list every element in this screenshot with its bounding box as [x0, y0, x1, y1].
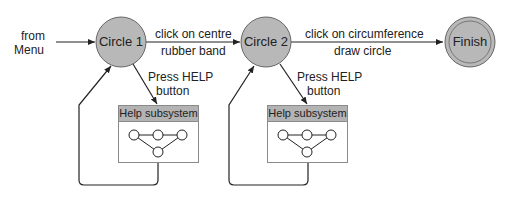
- help-event-2: Press HELP: [297, 70, 362, 84]
- node-label-circle2: Circle 2: [241, 34, 291, 49]
- node-label-finish: Finish: [445, 34, 495, 49]
- entry-label-line1: from: [21, 29, 45, 43]
- transition-event-2: click on circumference: [305, 27, 424, 41]
- help-subsystem-title-1: Help subsystem: [119, 106, 198, 122]
- transition-action-1: rubber band: [161, 44, 226, 58]
- help-subsystem-title-2: Help subsystem: [268, 106, 347, 122]
- help-network-icon: [268, 122, 347, 163]
- node-label-circle1: Circle 1: [96, 34, 146, 49]
- diagram-canvas: [0, 0, 505, 203]
- entry-label-line2: Menu: [14, 43, 44, 57]
- help-network-icon: [119, 122, 198, 163]
- help-subsystem-box-1: Help subsystem: [118, 105, 199, 163]
- transition-event-1: click on centre: [155, 27, 232, 41]
- help-subsystem-box-2: Help subsystem: [267, 105, 348, 163]
- help-action-1: button: [156, 84, 189, 98]
- transition-action-2: draw circle: [334, 44, 391, 58]
- help-event-1: Press HELP: [148, 70, 213, 84]
- help-action-2: button: [307, 84, 340, 98]
